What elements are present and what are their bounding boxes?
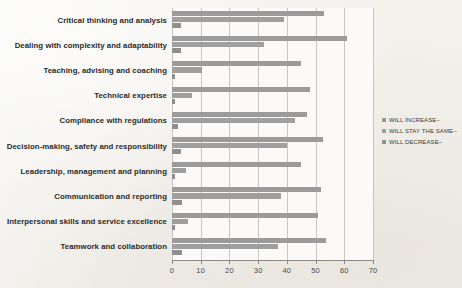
- x-tick-label: 0: [162, 266, 182, 275]
- category-label: Technical expertise: [0, 91, 167, 100]
- bar: [172, 225, 175, 230]
- legend-item[interactable]: WILL DECREASE–: [382, 139, 462, 145]
- bar: [172, 48, 181, 53]
- bar: [172, 200, 182, 205]
- bar: [172, 99, 175, 104]
- category-label: Decision-making, safety and responsibili…: [0, 142, 167, 151]
- legend-item[interactable]: WILL INCREASE–: [382, 117, 462, 123]
- bar: [172, 143, 287, 148]
- bar: [172, 17, 284, 22]
- bar: [172, 93, 192, 98]
- x-tick-label: 40: [277, 266, 297, 275]
- bar: [172, 23, 181, 28]
- bar: [172, 87, 310, 92]
- category-label: Dealing with complexity and adaptability: [0, 41, 167, 50]
- gridline: [373, 8, 374, 260]
- legend-label: WILL INCREASE–: [389, 117, 440, 123]
- gridline: [316, 8, 317, 260]
- x-tick-mark: [344, 260, 345, 264]
- x-tick-label: 50: [306, 266, 326, 275]
- bar: [172, 244, 278, 249]
- x-tick-label: 70: [363, 266, 383, 275]
- x-tick-mark: [258, 260, 259, 264]
- bar: [172, 11, 324, 16]
- x-tick-mark: [287, 260, 288, 264]
- bar: [172, 168, 186, 173]
- bar: [172, 137, 323, 142]
- bar: [172, 61, 301, 66]
- category-label: Communication and reporting: [0, 192, 167, 201]
- legend-label: WILL STAY THE SAME–: [389, 128, 457, 134]
- category-label: Teaching, advising and coaching: [0, 66, 167, 75]
- bar: [172, 162, 301, 167]
- chart-legend: WILL INCREASE–WILL STAY THE SAME–WILL DE…: [382, 117, 462, 150]
- bar: [172, 67, 202, 72]
- category-label: Critical thinking and analysis: [0, 16, 167, 25]
- legend-swatch-icon: [382, 118, 386, 122]
- bar: [172, 149, 181, 154]
- gridline: [344, 8, 345, 260]
- x-tick-label: 20: [219, 266, 239, 275]
- gridline: [287, 8, 288, 260]
- category-label: Interpersonal skills and service excelle…: [0, 217, 167, 226]
- x-tick-label: 30: [248, 266, 268, 275]
- horizontal-bar-chart: 010203040506070 Critical thinking and an…: [0, 0, 462, 288]
- category-label: Teamwork and collaboration: [0, 242, 167, 251]
- bar: [172, 213, 318, 218]
- legend-swatch-icon: [382, 129, 386, 133]
- x-tick-mark: [373, 260, 374, 264]
- x-tick-mark: [201, 260, 202, 264]
- x-tick-mark: [172, 260, 173, 264]
- bar: [172, 36, 347, 41]
- bar: [172, 193, 281, 198]
- bar: [172, 118, 295, 123]
- category-label: Compliance with regulations: [0, 116, 167, 125]
- bar: [172, 187, 321, 192]
- x-tick-label: 10: [191, 266, 211, 275]
- bar: [172, 219, 188, 224]
- legend-label: WILL DECREASE–: [389, 139, 442, 145]
- legend-swatch-icon: [382, 140, 386, 144]
- bar: [172, 42, 264, 47]
- bar: [172, 174, 175, 179]
- legend-item[interactable]: WILL STAY THE SAME–: [382, 128, 462, 134]
- category-label: Leadership, management and planning: [0, 167, 167, 176]
- bar: [172, 112, 307, 117]
- bar: [172, 238, 326, 243]
- x-tick-mark: [229, 260, 230, 264]
- bar: [172, 250, 182, 255]
- x-tick-label: 60: [334, 266, 354, 275]
- x-tick-mark: [316, 260, 317, 264]
- bar: [172, 74, 175, 79]
- bar: [172, 124, 178, 129]
